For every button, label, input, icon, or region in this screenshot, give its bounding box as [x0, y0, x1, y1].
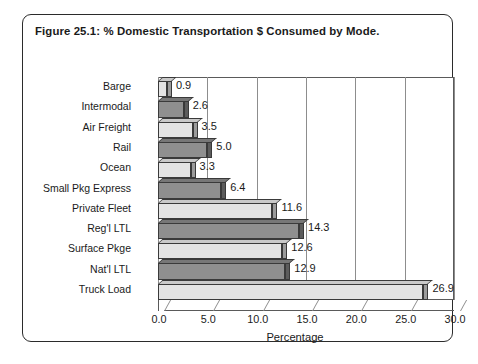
- bar-ocean: [158, 158, 196, 178]
- x-axis-title: Percentage: [136, 331, 454, 343]
- floor-tick: [460, 300, 467, 311]
- value-label: 14.3: [308, 221, 329, 233]
- category-label: Ocean: [0, 161, 131, 173]
- chart-floor-3d: [158, 300, 454, 311]
- bar-chart-plot: BargeIntermodalAir FreightRailOceanSmall…: [136, 63, 454, 308]
- bar-side-face: [282, 243, 287, 259]
- bar-top-face: [158, 239, 292, 243]
- value-label: 11.6: [281, 201, 302, 213]
- bar-side-face: [299, 223, 304, 239]
- bar-front-face: [158, 142, 207, 158]
- bar-side-face: [184, 101, 189, 117]
- bar-front-face: [158, 182, 221, 198]
- bar-side-face: [167, 81, 172, 97]
- value-label: 2.6: [193, 99, 208, 111]
- x-tick-label: 0.0: [151, 313, 166, 325]
- bar-front-face: [158, 263, 285, 279]
- bar-side-face: [207, 142, 212, 158]
- gridline-25.0: [405, 77, 406, 300]
- bar-top-face: [158, 280, 433, 284]
- bar-side-face: [285, 263, 290, 279]
- value-label: 3.5: [202, 120, 217, 132]
- x-tick-label: 5.0: [201, 313, 216, 325]
- bar-air-freight: [158, 118, 198, 138]
- x-tick-label: 15.0: [296, 313, 317, 325]
- bar-side-face: [191, 162, 196, 178]
- x-tick-label: 20.0: [346, 313, 367, 325]
- bar-front-face: [158, 162, 191, 178]
- figure-card: Figure 25.1: % Domestic Transportation $…: [22, 14, 453, 342]
- value-label: 6.4: [230, 181, 245, 193]
- gridline-20.0: [355, 77, 356, 300]
- x-tick-label: 25.0: [395, 313, 416, 325]
- bar-front-face: [158, 223, 299, 239]
- bar-side-face: [221, 182, 226, 198]
- category-label: Reg'l LTL: [0, 222, 131, 234]
- value-label: 0.9: [176, 79, 191, 91]
- category-label: Barge: [0, 80, 131, 92]
- bar-front-face: [158, 284, 423, 300]
- bar-private-fleet: [158, 199, 277, 219]
- bar-top-face: [158, 219, 309, 223]
- bar-side-face: [193, 122, 198, 138]
- bar-barge: [158, 77, 172, 97]
- value-label: 5.0: [216, 140, 231, 152]
- category-label: Surface Pkge: [0, 242, 131, 254]
- bar-front-face: [158, 243, 282, 259]
- bar-top-face: [158, 178, 231, 182]
- bar-front-face: [158, 81, 167, 97]
- bar-small-pkg-express: [158, 178, 226, 198]
- category-label: Private Fleet: [0, 202, 131, 214]
- category-label: Intermodal: [0, 100, 131, 112]
- bar-front-face: [158, 122, 193, 138]
- bar-reg-l-ltl: [158, 219, 304, 239]
- bar-side-face: [423, 284, 428, 300]
- value-label: 26.9: [432, 282, 453, 294]
- figure-title: Figure 25.1: % Domestic Transportation $…: [35, 25, 379, 37]
- gridline-30.0: [454, 77, 455, 300]
- category-label: Rail: [0, 141, 131, 153]
- bar-front-face: [158, 203, 272, 219]
- bar-intermodal: [158, 97, 189, 117]
- category-label: Nat'l LTL: [0, 263, 131, 275]
- category-label: Truck Load: [0, 283, 131, 295]
- category-label: Air Freight: [0, 121, 131, 133]
- bar-nat-l-ltl: [158, 259, 290, 279]
- bar-rail: [158, 138, 212, 158]
- x-tick-label: 10.0: [247, 313, 268, 325]
- value-label: 12.6: [291, 241, 312, 253]
- bar-surface-pkge: [158, 239, 287, 259]
- x-tick-label: 30.0: [444, 313, 465, 325]
- value-label: 3.3: [200, 160, 215, 172]
- bar-front-face: [158, 101, 184, 117]
- bar-truck-load: [158, 280, 428, 300]
- value-label: 12.9: [294, 262, 315, 274]
- category-label: Small Pkg Express: [0, 182, 131, 194]
- bar-top-face: [158, 199, 282, 203]
- bar-side-face: [272, 203, 277, 219]
- bar-top-face: [158, 259, 295, 263]
